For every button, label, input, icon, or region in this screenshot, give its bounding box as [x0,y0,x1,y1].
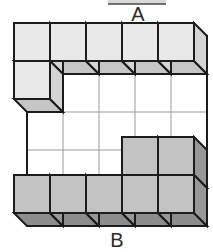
cube-front-face [158,137,194,175]
cube-puzzle-figure: A B [0,0,213,252]
cube-front-face [86,23,122,61]
cube-front-face [122,23,158,61]
cube-front-face [122,137,158,175]
cube-front-face [14,175,50,213]
label-a: A [131,3,145,25]
label-b: B [110,229,123,251]
cube-front-face [122,175,158,213]
cube-front-face [158,175,194,213]
cube-front-face [50,175,86,213]
cube-front-face [14,61,50,99]
cube-diagram: A B [0,0,213,252]
cube-front-face [158,23,194,61]
cube-front-face [86,175,122,213]
cube-front-face [50,23,86,61]
cube-front-face [14,23,50,61]
